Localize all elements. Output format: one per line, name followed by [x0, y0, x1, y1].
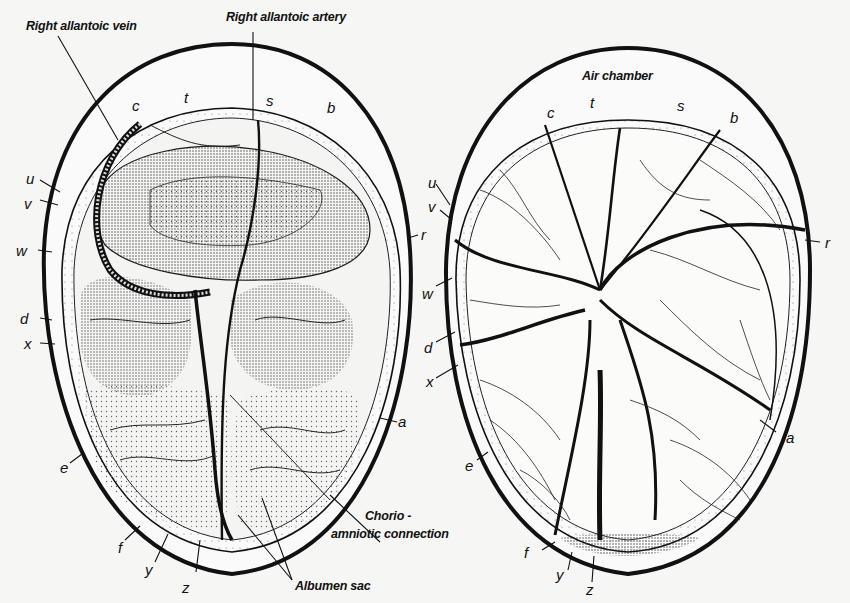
label-left-z: z [182, 580, 190, 595]
label-left-x: x [24, 336, 32, 351]
label-right-z: z [586, 582, 594, 597]
label-right-x: x [426, 374, 434, 389]
label-right-u: u [428, 175, 436, 190]
label-right-allantoic-vein: Right allantoic vein [26, 20, 137, 33]
label-right-b: b [730, 110, 738, 125]
label-left-u: u [26, 171, 34, 186]
label-right-c: c [547, 105, 555, 120]
label-left-v: v [24, 196, 32, 211]
label-right-y: y [556, 567, 564, 582]
left-egg [38, 32, 418, 580]
label-albumen-sac: Albumen sac [295, 580, 371, 593]
label-air-chamber: Air chamber [582, 70, 653, 83]
label-left-y: y [145, 562, 153, 577]
label-right-s: s [677, 98, 685, 113]
label-left-d: d [20, 311, 28, 326]
label-right-d: d [424, 340, 432, 355]
label-right-v: v [428, 199, 436, 214]
label-left-e: e [60, 460, 68, 475]
label-left-c: c [132, 98, 140, 113]
label-right-allantoic-artery: Right allantoic artery [226, 11, 346, 24]
label-right-t: t [590, 95, 594, 110]
label-right-f: f [524, 545, 528, 560]
label-left-t: t [184, 90, 188, 105]
label-left-b: b [327, 100, 335, 115]
label-right-e: e [465, 458, 473, 473]
label-left-a: a [398, 414, 406, 429]
label-right-w: w [422, 286, 433, 301]
right-egg [436, 48, 820, 582]
label-chorio-amniotic-2: amniotic connection [331, 528, 449, 541]
label-right-a: a [786, 430, 794, 445]
label-left-f: f [118, 540, 122, 555]
label-left-r: r [421, 227, 426, 242]
label-right-r: r [825, 235, 830, 250]
label-left-w: w [16, 243, 27, 258]
label-chorio-amniotic-1: Chorio - [365, 510, 411, 523]
label-left-s: s [266, 93, 274, 108]
